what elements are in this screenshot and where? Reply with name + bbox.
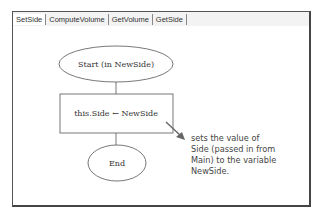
annotation-line: Side (passed in from [191, 144, 275, 154]
process-label: this.Side ← NewSide [74, 109, 158, 118]
end-label: End [109, 159, 125, 168]
start-label: Start (in NewSide) [78, 60, 154, 69]
flowchart-canvas: Start (in NewSide) this.Side ← NewSide E… [0, 0, 322, 215]
annotation-line: sets the value of [191, 133, 260, 143]
annotation-line: NewSide. [191, 166, 229, 176]
annotation-note: sets the value of Side (passed in from M… [191, 133, 276, 176]
annotation-line: Main) to the variable [191, 155, 276, 165]
